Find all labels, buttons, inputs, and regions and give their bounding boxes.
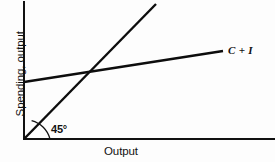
c-plus-i-line [24, 51, 223, 82]
angle-annotation-label: 45° [51, 124, 67, 135]
x-axis-label: Output [104, 146, 138, 158]
y-axis-label: Spending, output [15, 15, 27, 133]
keynesian-cross-figure: Spending, output Output 45° C + I [0, 0, 275, 162]
plot-area [0, 0, 275, 162]
c-plus-i-curve-label: C + I [228, 45, 253, 56]
